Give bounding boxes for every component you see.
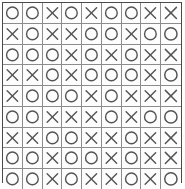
circle-icon <box>23 169 42 187</box>
grid-cell <box>3 24 23 45</box>
cross-icon <box>3 128 22 148</box>
cross-icon <box>102 169 121 187</box>
grid-cell <box>43 45 63 66</box>
grid-cell <box>122 107 142 128</box>
grid-cell <box>141 45 161 66</box>
grid-cell <box>3 169 23 187</box>
grid-cell <box>43 148 63 169</box>
grid-cell <box>23 107 43 128</box>
cross-icon <box>141 45 160 65</box>
cross-icon <box>62 65 81 85</box>
cross-icon <box>43 107 62 127</box>
circle-icon <box>161 107 181 127</box>
cross-icon <box>102 148 121 168</box>
grid-cell <box>62 3 82 24</box>
cross-icon <box>122 24 141 44</box>
grid-cell <box>141 169 161 187</box>
grid-cell <box>161 128 181 149</box>
cross-icon <box>43 148 62 168</box>
cross-icon <box>102 45 121 65</box>
circle-icon <box>62 128 81 148</box>
grid-cell <box>82 86 102 107</box>
circle-icon <box>62 86 81 106</box>
grid-cell <box>161 86 181 107</box>
grid-cell <box>82 45 102 66</box>
circle-icon <box>141 24 160 44</box>
cross-icon <box>3 86 22 106</box>
grid-cell <box>102 148 122 169</box>
grid-cell <box>62 107 82 128</box>
grid-cell <box>102 24 122 45</box>
cross-icon <box>62 107 81 127</box>
grid-cell <box>122 45 142 66</box>
grid-cell <box>102 65 122 86</box>
cross-icon <box>43 24 62 44</box>
grid-cell <box>161 169 181 187</box>
circle-icon <box>102 24 121 44</box>
cross-icon <box>161 128 181 148</box>
cross-icon <box>141 128 160 148</box>
grid-cell <box>141 148 161 169</box>
grid-cell <box>3 128 23 149</box>
grid-cell <box>141 3 161 24</box>
cross-icon <box>82 169 101 187</box>
grid-cell <box>82 107 102 128</box>
circle-icon <box>43 65 62 85</box>
grid-cell <box>43 65 63 86</box>
circle-icon <box>122 3 141 23</box>
grid-cell <box>62 169 82 187</box>
cross-icon <box>161 148 181 168</box>
grid-cell <box>62 86 82 107</box>
cross-icon <box>161 45 181 65</box>
cross-icon <box>161 86 181 106</box>
grid-cell <box>82 65 102 86</box>
circle-icon <box>62 148 81 168</box>
grid-cell <box>161 148 181 169</box>
grid-cell <box>102 169 122 187</box>
grid-cell <box>43 107 63 128</box>
grid-cell <box>43 24 63 45</box>
grid-cell <box>141 107 161 128</box>
circle-icon <box>3 3 22 23</box>
grid-cell <box>102 45 122 66</box>
grid-cell <box>141 65 161 86</box>
grid-cell <box>43 169 63 187</box>
grid-cell <box>161 65 181 86</box>
grid-cell <box>161 24 181 45</box>
grid-cell <box>62 65 82 86</box>
circle-icon <box>43 128 62 148</box>
circle-icon <box>23 3 42 23</box>
circle-icon <box>122 65 141 85</box>
cross-icon <box>43 169 62 187</box>
cross-icon <box>141 86 160 106</box>
cross-icon <box>62 45 81 65</box>
grid-cell <box>161 107 181 128</box>
grid-cell <box>23 169 43 187</box>
cross-icon <box>3 65 22 85</box>
grid-cell <box>23 24 43 45</box>
grid-cell <box>43 86 63 107</box>
grid-cell <box>82 128 102 149</box>
grid-cell <box>82 169 102 187</box>
circle-icon <box>82 45 101 65</box>
cross-icon <box>23 128 42 148</box>
grid-cell <box>102 107 122 128</box>
cross-icon <box>122 86 141 106</box>
grid-cell <box>141 86 161 107</box>
circle-icon <box>43 86 62 106</box>
grid-cell <box>122 169 142 187</box>
circle-icon <box>43 45 62 65</box>
grid-cell <box>43 128 63 149</box>
symbol-grid <box>2 2 182 183</box>
grid-cell <box>122 24 142 45</box>
circle-icon <box>23 148 42 168</box>
grid-cell <box>102 86 122 107</box>
cross-icon <box>43 3 62 23</box>
grid-cell <box>122 86 142 107</box>
circle-icon <box>23 107 42 127</box>
circle-icon <box>161 65 181 85</box>
grid-cell <box>23 86 43 107</box>
grid-cell <box>3 3 23 24</box>
circle-icon <box>102 107 121 127</box>
cross-icon <box>3 24 22 44</box>
